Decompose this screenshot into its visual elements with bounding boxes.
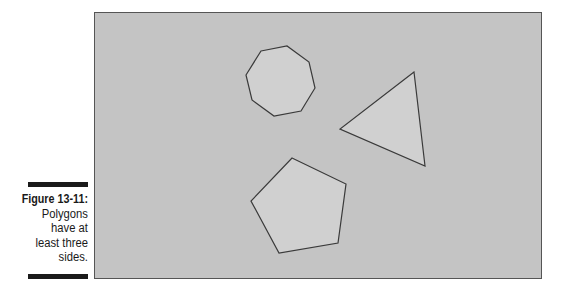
shapes-drawing (1, 1, 566, 303)
triangle-shape (340, 72, 425, 166)
pentagon-shape (251, 158, 346, 253)
figure-canvas (94, 12, 542, 279)
octagon-shape (246, 46, 315, 116)
